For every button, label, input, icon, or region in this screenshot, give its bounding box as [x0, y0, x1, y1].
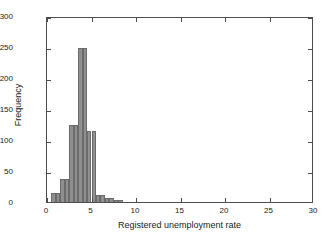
y-tick	[47, 142, 51, 143]
y-tick-label: 200	[0, 75, 13, 83]
x-tick	[181, 18, 182, 22]
x-tick-label: 0	[31, 206, 61, 215]
plot-area	[46, 17, 313, 203]
x-tick-label: 30	[298, 206, 328, 215]
y-tick	[308, 80, 312, 81]
y-tick	[47, 111, 51, 112]
x-tick	[181, 198, 182, 202]
x-tick	[225, 18, 226, 22]
x-tick	[92, 198, 93, 202]
y-tick	[308, 142, 312, 143]
bar-series	[47, 18, 312, 202]
y-tick	[47, 80, 51, 81]
x-tick	[136, 198, 137, 202]
y-tick-label: 0	[0, 199, 13, 207]
y-tick-label: 50	[0, 168, 13, 176]
y-tick	[308, 18, 312, 19]
y-tick	[308, 49, 312, 50]
y-tick	[308, 111, 312, 112]
y-tick-label: 250	[0, 44, 13, 52]
x-tick-label: 25	[254, 206, 284, 215]
x-axis-title: Registered unemployment rate	[46, 220, 313, 230]
y-tick-label: 300	[0, 13, 13, 21]
y-tick	[47, 49, 51, 50]
x-tick	[136, 18, 137, 22]
x-tick	[225, 198, 226, 202]
y-tick-label: 100	[0, 137, 13, 145]
y-tick	[47, 173, 51, 174]
x-tick	[47, 18, 48, 22]
x-tick-label: 5	[76, 206, 106, 215]
x-tick	[92, 18, 93, 22]
y-tick-label: 150	[0, 106, 13, 114]
y-axis-title: Frequency	[13, 60, 23, 150]
histogram-bar	[92, 131, 96, 202]
histogram-bar	[118, 200, 122, 202]
x-tick	[270, 18, 271, 22]
x-tick	[270, 198, 271, 202]
x-tick	[47, 198, 48, 202]
x-tick-label: 10	[120, 206, 150, 215]
x-tick-label: 15	[165, 206, 195, 215]
y-tick	[308, 173, 312, 174]
x-tick-label: 20	[209, 206, 239, 215]
histogram-figure: 050100150200250300 051015202530 Frequenc…	[0, 0, 331, 243]
